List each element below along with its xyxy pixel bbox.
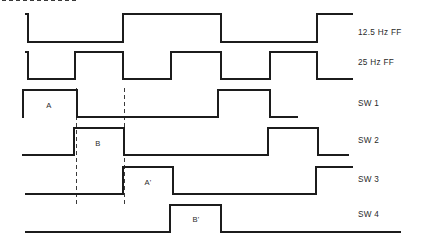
waveform-ff-25 xyxy=(26,52,352,79)
annot-b: B xyxy=(95,139,100,148)
annot-a-prime: A' xyxy=(145,178,152,187)
timing-diagram-canvas: 12.5 Hz FF25 Hz FFSW 1SW 2SW 3SW 4 ABA'B… xyxy=(0,0,422,248)
waveform-sw-4 xyxy=(26,205,400,232)
signal-label-sw-1: SW 1 xyxy=(358,99,379,108)
signal-label-ff-12-5: 12.5 Hz FF xyxy=(358,28,402,37)
signal-label-sw-3: SW 3 xyxy=(358,175,379,184)
waveform-sw-1 xyxy=(23,90,297,117)
signal-label-sw-4: SW 4 xyxy=(358,210,379,219)
signal-label-sw-2: SW 2 xyxy=(358,136,379,145)
waveforms-layer xyxy=(23,14,400,232)
signal-label-ff-25: 25 Hz FF xyxy=(358,58,394,67)
timing-diagram-root: 12.5 Hz FF25 Hz FFSW 1SW 2SW 3SW 4 ABA'B… xyxy=(0,0,422,248)
waveform-sw-3 xyxy=(26,167,352,194)
waveform-sw-2 xyxy=(23,128,348,155)
annot-b-prime: B' xyxy=(193,215,200,224)
annot-a: A xyxy=(46,101,52,110)
waveform-ff-12-5 xyxy=(26,14,352,42)
signal-labels-layer: 12.5 Hz FF25 Hz FFSW 1SW 2SW 3SW 4 xyxy=(358,28,402,219)
